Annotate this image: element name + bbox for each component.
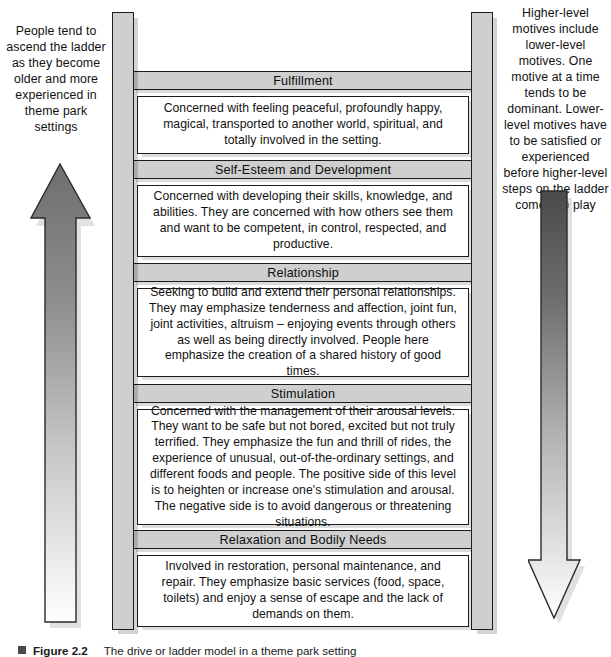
- ladder-panel-fulfillment: Concerned with feeling peaceful, profoun…: [137, 96, 469, 154]
- ladder-rung-label: Relaxation and Bodily Needs: [219, 533, 386, 547]
- ladder-rung-fulfillment: Fulfillment: [131, 71, 475, 90]
- ladder-diagram: Fulfillment Concerned with feeling peace…: [112, 12, 493, 630]
- ladder-steps-container: Fulfillment Concerned with feeling peace…: [131, 12, 475, 630]
- ladder-panel-text: Concerned with feeling peaceful, profoun…: [148, 101, 458, 149]
- ladder-rung-relationship: Relationship: [131, 263, 475, 282]
- upward-arrow: [24, 160, 98, 630]
- ladder-rung-label: Fulfillment: [273, 74, 333, 88]
- right-annotation-text: Higher-level motives include lower-level…: [502, 6, 609, 214]
- ladder-rung-label: Relationship: [267, 266, 339, 280]
- ladder-panel-relaxation-and-bodily-needs: Involved in restoration, personal mainte…: [137, 555, 469, 627]
- ladder-rail-right: [471, 12, 493, 630]
- ladder-panel-relationship: Seeking to build and extend their person…: [137, 288, 469, 377]
- figure-number: Figure 2.2: [33, 644, 88, 657]
- ladder-panel-text: Concerned with the management of their a…: [148, 404, 458, 531]
- caption-marker-icon: [18, 646, 26, 654]
- downward-arrow: [528, 186, 588, 628]
- figure-title: The drive or ladder model in a theme par…: [104, 644, 357, 657]
- ladder-panel-self-esteem-and-development: Concerned with developing their skills, …: [137, 185, 469, 257]
- left-annotation-text: People tend to ascend the ladder as they…: [2, 24, 110, 136]
- ladder-rung-stimulation: Stimulation: [131, 384, 475, 403]
- ladder-panel-text: Seeking to build and extend their person…: [148, 285, 458, 380]
- figure-caption: Figure 2.2The drive or ladder model in a…: [18, 644, 578, 657]
- ladder-panel-text: Involved in restoration, personal mainte…: [148, 559, 458, 622]
- upward-arrow-icon: [24, 160, 98, 630]
- ladder-panel-stimulation: Concerned with the management of their a…: [137, 409, 469, 525]
- ladder-rung-self-esteem-and-development: Self-Esteem and Development: [131, 160, 475, 179]
- ladder-panel-text: Concerned with developing their skills, …: [148, 189, 458, 252]
- ladder-rung-label: Stimulation: [271, 387, 336, 401]
- ladder-rail-left: [112, 12, 134, 630]
- ladder-rung-relaxation-and-bodily-needs: Relaxation and Bodily Needs: [131, 530, 475, 549]
- downward-arrow-icon: [528, 186, 588, 628]
- ladder-rung-label: Self-Esteem and Development: [215, 163, 391, 177]
